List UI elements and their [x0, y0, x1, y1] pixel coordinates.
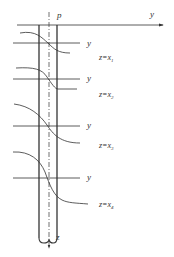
section-1-depth-label: z=x1 — [98, 53, 114, 63]
section-4-y-label: y — [86, 172, 91, 182]
section-1-y-label: y — [86, 38, 91, 48]
section-2-curve — [16, 68, 77, 89]
section-4: y z=x4 — [13, 152, 114, 210]
section-2: y z=x2 — [13, 68, 114, 100]
pile-label: p — [56, 10, 62, 20]
section-3-depth-label: z=x3 — [98, 141, 114, 151]
y-axis-label: y — [149, 9, 154, 19]
section-1: y z=x1 — [13, 32, 114, 63]
section-4-depth-label: z=x4 — [98, 200, 114, 210]
section-2-y-label: y — [86, 73, 91, 83]
section-3-y-label: y — [86, 120, 91, 130]
z-axis-label: z — [55, 232, 60, 242]
section-3-curve — [14, 104, 80, 143]
section-2-depth-label: z=x2 — [98, 90, 114, 100]
section-3: y z=x3 — [13, 104, 114, 151]
pile-diagram: y p z y z=x1 y z=x2 y z=x3 y z=x4 — [0, 0, 174, 257]
